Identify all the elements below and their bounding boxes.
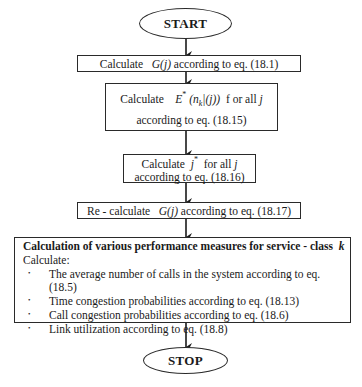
start-terminal: START (139, 8, 232, 39)
performance-list: The average number of calls in the syste… (23, 268, 350, 337)
step-performance-measures: Calculation of various performance measu… (14, 237, 351, 323)
math-g-of-j: G(j) (159, 205, 178, 217)
start-label: START (164, 16, 207, 32)
step4-text: Re - calculate G(j) according to eq. (18… (87, 203, 291, 219)
list-item: Time congestion probabilities according … (23, 295, 350, 309)
step3-line1: Calculate j* for all j (142, 153, 238, 171)
step1-text: Calculate G(j) according to eq. (18.1) (100, 56, 279, 72)
step-calculate-e-star: Calculate E* (nk|(j)) f or all j accordi… (105, 83, 278, 131)
performance-subtitle: Calculate: (23, 254, 70, 268)
math-g-of-j: G(j) (152, 58, 171, 70)
list-item: Call congestion probabilities according … (23, 309, 350, 323)
list-item: Link utilization according to eq. (18.8) (23, 323, 350, 337)
stop-terminal: STOP (143, 347, 228, 374)
list-item: The average number of calls in the syste… (23, 268, 350, 296)
stop-label: STOP (168, 353, 203, 369)
step2-line1: Calculate E* (nk|(j)) f or all j (120, 87, 262, 112)
step2-line2: according to eq. (18.15) (136, 112, 246, 128)
step-calculate-j-star: Calculate j* for all j according to eq. … (123, 154, 256, 183)
step3-line2: according to eq. (18.16) (134, 171, 244, 184)
step-calculate-g: Calculate G(j) according to eq. (18.1) (77, 55, 301, 72)
performance-title: Calculation of various performance measu… (23, 240, 345, 254)
step-recalculate-g: Re - calculate G(j) according to eq. (18… (77, 202, 301, 219)
